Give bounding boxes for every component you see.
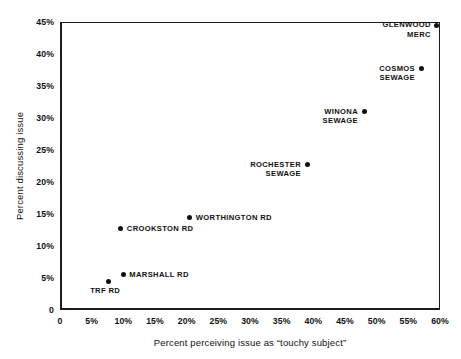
data-point — [362, 109, 367, 114]
y-axis-title: Percent discussing issue — [12, 22, 28, 310]
data-point-label: TRF RD — [90, 286, 120, 296]
data-point-label: GLENWOOD MERC — [341, 20, 431, 39]
x-tick-label: 60% — [420, 316, 460, 326]
data-point — [305, 162, 310, 167]
data-point — [106, 279, 111, 284]
data-point-label: WORTHINGTON RD — [196, 213, 272, 223]
data-point-label: WINONA SEWAGE — [268, 107, 358, 126]
data-point-label: MARSHALL RD — [129, 270, 188, 280]
data-point-label: CROOKSTON RD — [127, 224, 194, 234]
scatter-chart: 05%10%15%20%25%30%35%40%45% 05%10%15%20%… — [0, 0, 461, 359]
x-axis-title: Percent perceiving issue as “touchy subj… — [60, 337, 440, 348]
data-point-label: ROCHESTER SEWAGE — [211, 160, 301, 179]
data-point — [419, 66, 424, 71]
data-point-label: COSMOS SEWAGE — [325, 64, 415, 83]
